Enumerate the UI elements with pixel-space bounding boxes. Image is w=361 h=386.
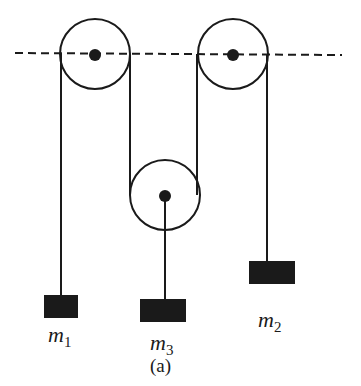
middle-pulley-axle bbox=[159, 190, 171, 202]
mass-m3-block bbox=[140, 299, 186, 322]
label-m2: m2 bbox=[258, 307, 281, 336]
mass-m2-block bbox=[249, 261, 295, 284]
right-pulley-axle bbox=[227, 49, 239, 61]
pulley-diagram: m1 m3 m2 (a) bbox=[0, 0, 361, 386]
mass-m1-block bbox=[44, 295, 78, 318]
label-m1: m1 bbox=[48, 322, 71, 351]
dashed-reference-line bbox=[15, 53, 342, 55]
left-pulley-axle bbox=[89, 49, 101, 61]
caption: (a) bbox=[150, 355, 171, 377]
